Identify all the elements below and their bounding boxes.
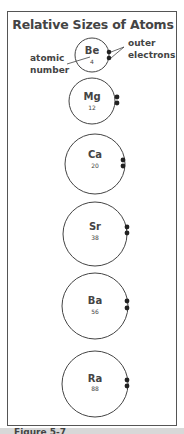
outer-electrons-label: outer bbox=[128, 38, 156, 48]
atom-be: Be 4 bbox=[75, 38, 111, 72]
atom-outline bbox=[62, 351, 128, 417]
electron-dot bbox=[125, 299, 130, 304]
electron-dot bbox=[107, 50, 112, 55]
callout-line bbox=[111, 47, 124, 58]
electron-dot bbox=[121, 158, 126, 163]
electron-dot bbox=[125, 306, 130, 311]
atom-ra: Ra 88 bbox=[62, 351, 129, 417]
atomic-number-label: number bbox=[30, 65, 70, 75]
atom-diagram: Be 4 outer electrons atomic number Mg 12… bbox=[0, 0, 184, 434]
atomic-number-label: atomic bbox=[30, 53, 64, 63]
atom-number: 4 bbox=[90, 58, 94, 65]
callout-line bbox=[67, 57, 90, 64]
atom-symbol: Ra bbox=[88, 373, 102, 384]
electron-dot bbox=[107, 56, 112, 61]
atom-ca: Ca 20 bbox=[65, 134, 125, 194]
atom-outline bbox=[62, 273, 128, 339]
atom-symbol: Sr bbox=[89, 221, 101, 232]
electron-dot bbox=[125, 225, 130, 230]
electron-dot bbox=[115, 95, 120, 100]
electron-dot bbox=[115, 101, 120, 106]
electron-dot bbox=[125, 384, 130, 389]
callout-line bbox=[111, 47, 124, 52]
atom-number: 12 bbox=[88, 104, 96, 111]
atom-mg: Mg 12 bbox=[69, 78, 119, 124]
outer-electrons-label: electrons bbox=[128, 50, 175, 60]
figure-caption: Figure 5-7 bbox=[14, 428, 66, 434]
atom-number: 56 bbox=[91, 308, 99, 315]
atom-symbol: Ba bbox=[88, 295, 102, 306]
atom-sr: Sr 38 bbox=[63, 202, 129, 266]
atom-ba: Ba 56 bbox=[62, 273, 129, 339]
atom-number: 20 bbox=[91, 162, 99, 169]
electron-dot bbox=[125, 231, 130, 236]
electron-dot bbox=[125, 378, 130, 383]
atom-symbol: Mg bbox=[83, 91, 100, 102]
atom-number: 88 bbox=[91, 385, 99, 392]
atom-symbol: Be bbox=[85, 45, 100, 56]
atom-number: 38 bbox=[91, 234, 99, 241]
electron-dot bbox=[121, 164, 126, 169]
atom-symbol: Ca bbox=[88, 149, 102, 160]
